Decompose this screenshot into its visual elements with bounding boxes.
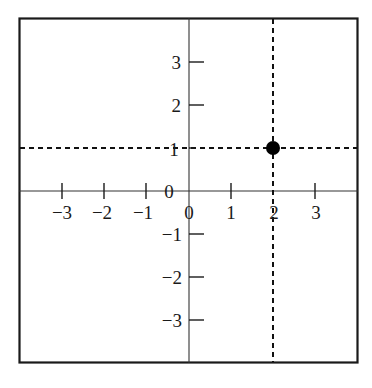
plotted-point-2-1: [266, 141, 280, 155]
coordinate-plane: −3 −2 −1 0 1 2 3 3 2 1 0 −1 −2 −3: [0, 0, 372, 388]
x-label-neg3: −3: [52, 202, 72, 223]
y-label-0: 0: [164, 181, 174, 202]
y-label-neg3: −3: [162, 310, 182, 331]
y-label-neg1: −1: [162, 224, 182, 245]
x-label-3: 3: [311, 202, 321, 223]
x-label-1: 1: [226, 202, 236, 223]
y-label-3: 3: [172, 52, 182, 73]
y-label-neg2: −2: [162, 267, 182, 288]
y-label-1: 1: [169, 139, 179, 160]
y-label-2: 2: [172, 95, 182, 116]
x-label-neg2: −2: [92, 202, 112, 223]
x-label-2: 2: [269, 202, 279, 223]
x-label-neg1: −1: [133, 202, 153, 223]
x-label-0: 0: [184, 202, 194, 223]
